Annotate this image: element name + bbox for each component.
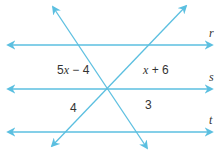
line-s-label: s: [209, 70, 214, 84]
angle-label-upper-right: x + 6: [142, 63, 169, 77]
line-t-label: t: [209, 113, 213, 127]
rest: − 4: [69, 63, 90, 77]
parallel-line-s: s: [8, 70, 214, 89]
angle-label-lower-left: 4: [70, 101, 77, 115]
line-r-label: r: [209, 26, 214, 40]
angle-label-lower-right: 3: [145, 98, 152, 112]
parallel-line-t: t: [8, 113, 213, 132]
parallel-line-r: r: [8, 26, 214, 45]
rest: + 6: [148, 63, 169, 77]
angle-label-upper-left: 5x − 4: [57, 63, 90, 77]
diagram-canvas: r s t 5x − 4 x + 6 4 3: [0, 0, 219, 153]
transversal-1: [53, 7, 147, 148]
